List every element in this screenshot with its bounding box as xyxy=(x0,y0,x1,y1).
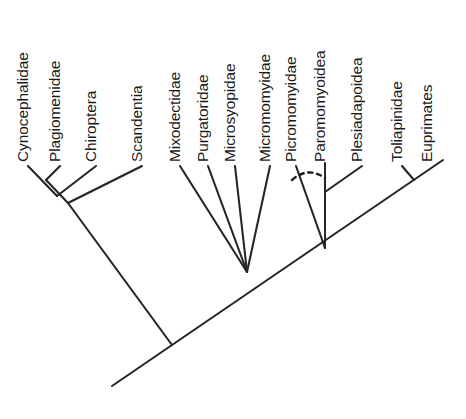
branch-lines-group xyxy=(28,160,443,386)
uncertain-links-group xyxy=(292,172,325,180)
taxon-label-toliapinidae: Toliapinidae xyxy=(388,81,405,162)
root-stem xyxy=(112,345,172,386)
phylogenetic-tree-svg: Cynocephalidae Plagiomenidae Chiroptera … xyxy=(0,0,466,419)
branch-cynocephalidae xyxy=(28,166,57,196)
taxon-label-paromomyoidea: Paromomyoidea xyxy=(311,50,328,162)
branch-plesiadapoidea xyxy=(325,166,362,192)
clade-dermoptera-stem xyxy=(68,203,172,345)
taxon-label-mixodectidae: Mixodectidae xyxy=(166,72,183,162)
branch-micromomyidae xyxy=(247,166,270,272)
taxon-label-micromomyidae: Micromomyidae xyxy=(256,54,273,162)
node-cyno-plagio-stem xyxy=(46,180,68,203)
branch-scandentia xyxy=(68,166,142,203)
picromomyidae-paromomyoidea-uncertain-link xyxy=(292,172,325,180)
taxon-label-euprimates: Euprimates xyxy=(418,84,435,162)
taxon-label-plagiomenidae: Plagiomenidae xyxy=(46,61,63,162)
taxon-label-microsyopidae: Microsyopidae xyxy=(221,63,238,162)
branch-picromomyidae xyxy=(296,166,325,248)
taxon-labels-group: Cynocephalidae Plagiomenidae Chiroptera … xyxy=(14,50,435,162)
cladogram-diagram: Cynocephalidae Plagiomenidae Chiroptera … xyxy=(0,0,466,419)
taxon-label-purgatoridae: Purgatoridae xyxy=(194,74,211,162)
taxon-label-cynocephalidae: Cynocephalidae xyxy=(14,52,31,162)
taxon-label-plesiadapoidea: Plesiadapoidea xyxy=(348,57,365,162)
branch-toliapinidae xyxy=(402,166,414,180)
taxon-label-picromomyidae: Picromomyidae xyxy=(282,56,299,162)
main-diagonal-spine xyxy=(172,160,443,345)
taxon-label-scandentia: Scandentia xyxy=(128,85,145,162)
taxon-label-chiroptera: Chiroptera xyxy=(82,90,99,162)
branch-plagiomenidae xyxy=(46,166,60,180)
